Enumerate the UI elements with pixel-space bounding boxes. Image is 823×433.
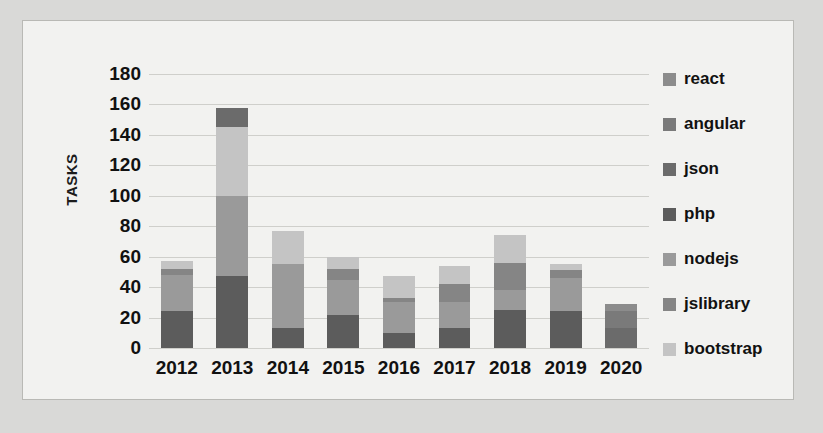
bar-column[interactable]	[538, 74, 593, 348]
stacked-bar[interactable]	[327, 257, 359, 348]
bar-column[interactable]	[371, 74, 426, 348]
legend-swatch-icon	[663, 163, 676, 176]
bar-segment-php[interactable]	[216, 276, 248, 348]
y-tick-label: 80	[95, 216, 141, 235]
bar-segment-bootstrap[interactable]	[216, 127, 248, 196]
y-axis-tick-labels: 180160140120100806040200	[79, 21, 141, 401]
bar-segment-bootstrap[interactable]	[161, 261, 193, 269]
y-tick-label: 40	[95, 277, 141, 296]
bar-segment-php[interactable]	[550, 311, 582, 348]
legend-item-label: php	[684, 204, 715, 224]
y-axis-title: TASKS	[63, 120, 80, 240]
x-axis-tick-labels: 201220132014201520162017201820192020	[149, 357, 649, 391]
x-tick-label: 2014	[260, 357, 315, 379]
y-tick-label: 20	[95, 308, 141, 327]
x-tick-label: 2013	[205, 357, 260, 379]
bar-segment-jslibrary[interactable]	[494, 263, 526, 290]
x-tick-label: 2018	[483, 357, 538, 379]
stacked-bar[interactable]	[605, 304, 637, 348]
bar-column[interactable]	[260, 74, 315, 348]
y-tick-label: 180	[95, 64, 141, 83]
bar-segment-bootstrap[interactable]	[439, 266, 471, 284]
y-tick-label: 0	[95, 338, 141, 357]
bar-segment-nodejs[interactable]	[550, 278, 582, 311]
bar-segment-react[interactable]	[605, 304, 637, 312]
y-tick-label: 160	[95, 94, 141, 113]
bar-column[interactable]	[483, 74, 538, 348]
legend-item-label: nodejs	[684, 249, 739, 269]
plot-region	[149, 74, 649, 348]
x-tick-label: 2020	[594, 357, 649, 379]
legend-item-label: json	[684, 159, 719, 179]
bar-segment-php[interactable]	[327, 315, 359, 348]
bar-segment-php[interactable]	[439, 328, 471, 348]
legend-swatch-icon	[663, 73, 676, 86]
bar-segment-php[interactable]	[272, 328, 304, 348]
bar-column[interactable]	[594, 74, 649, 348]
legend-item-label: react	[684, 69, 725, 89]
bar-segment-nodejs[interactable]	[494, 290, 526, 310]
legend-swatch-icon	[663, 343, 676, 356]
legend-item-label: jslibrary	[684, 294, 750, 314]
chart-area: TASKS 180160140120100806040200 201220132…	[23, 21, 795, 401]
x-tick-label: 2019	[538, 357, 593, 379]
x-tick-label: 2015	[316, 357, 371, 379]
x-tick-label: 2017	[427, 357, 482, 379]
stacked-bar[interactable]	[272, 231, 304, 348]
bar-column[interactable]	[149, 74, 204, 348]
gridline	[149, 348, 649, 349]
y-tick-label: 140	[95, 125, 141, 144]
y-tick-label: 120	[95, 155, 141, 174]
legend-item-label: bootstrap	[684, 339, 762, 359]
bar-segment-nodejs[interactable]	[383, 302, 415, 332]
bar-segment-angular[interactable]	[605, 311, 637, 328]
stacked-bar[interactable]	[216, 108, 248, 348]
legend-item-label: angular	[684, 114, 745, 134]
bar-segment-php[interactable]	[383, 333, 415, 348]
bar-segment-jslibrary[interactable]	[550, 270, 582, 278]
legend-item-bootstrap[interactable]: bootstrap	[663, 339, 795, 359]
bar-segment-json[interactable]	[216, 108, 248, 128]
stacked-bar[interactable]	[439, 266, 471, 348]
y-tick-label: 60	[95, 247, 141, 266]
bar-segment-nodejs[interactable]	[327, 280, 359, 315]
bar-segment-bootstrap[interactable]	[327, 257, 359, 269]
bar-segment-jslibrary[interactable]	[327, 269, 359, 280]
bar-column[interactable]	[316, 74, 371, 348]
bar-segment-bootstrap[interactable]	[272, 231, 304, 264]
legend: reactangularjsonphpnodejsjslibrarybootst…	[663, 69, 795, 359]
bar-segment-bootstrap[interactable]	[383, 276, 415, 297]
stacked-bar[interactable]	[494, 235, 526, 348]
bar-segment-nodejs[interactable]	[161, 275, 193, 312]
bar-column[interactable]	[205, 74, 260, 348]
legend-swatch-icon	[663, 208, 676, 221]
legend-item-json[interactable]: json	[663, 159, 795, 179]
chart-frame: TASKS 180160140120100806040200 201220132…	[22, 20, 794, 400]
y-tick-label: 100	[95, 186, 141, 205]
legend-swatch-icon	[663, 253, 676, 266]
legend-swatch-icon	[663, 118, 676, 131]
bar-column[interactable]	[427, 74, 482, 348]
bar-segment-nodejs[interactable]	[216, 196, 248, 277]
bar-segment-php[interactable]	[161, 311, 193, 348]
legend-swatch-icon	[663, 298, 676, 311]
legend-item-react[interactable]: react	[663, 69, 795, 89]
legend-item-nodejs[interactable]: nodejs	[663, 249, 795, 269]
bar-segment-bootstrap[interactable]	[494, 235, 526, 262]
bar-segment-json[interactable]	[605, 328, 637, 348]
bar-series-container	[149, 74, 649, 348]
bar-segment-nodejs[interactable]	[439, 302, 471, 328]
stacked-bar[interactable]	[161, 261, 193, 348]
x-tick-label: 2016	[371, 357, 426, 379]
bar-segment-nodejs[interactable]	[272, 264, 304, 328]
bar-segment-jslibrary[interactable]	[439, 284, 471, 302]
legend-item-php[interactable]: php	[663, 204, 795, 224]
stacked-bar[interactable]	[550, 264, 582, 348]
bar-segment-php[interactable]	[494, 310, 526, 348]
x-tick-label: 2012	[149, 357, 204, 379]
stacked-bar[interactable]	[383, 276, 415, 348]
legend-item-angular[interactable]: angular	[663, 114, 795, 134]
legend-item-jslibrary[interactable]: jslibrary	[663, 294, 795, 314]
